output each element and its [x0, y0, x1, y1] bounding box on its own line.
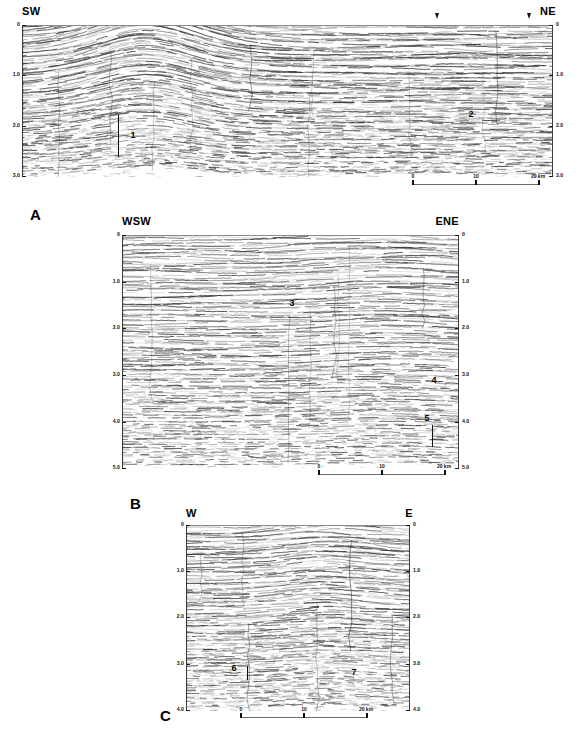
panel-c-annotation-6-leader: [247, 666, 248, 680]
panel-a-section: [22, 25, 553, 177]
panel-c-left-orientation: W: [186, 508, 197, 519]
panel-a-annotation-1-leader: [118, 115, 119, 157]
panel-a: SW NE 0 1.0 2.0 3.0 0 1.0 2.0: [0, 0, 580, 200]
panel-a-left-orientation: SW: [22, 6, 40, 17]
panel-c-seismic-traces: [187, 526, 409, 711]
panel-b-left-orientation: WSW: [122, 216, 151, 227]
panel-c-annotation-7: 7: [351, 668, 356, 677]
panel-c-section: [186, 525, 410, 711]
panel-b-section: [122, 235, 459, 468]
panel-c-letter: C: [160, 708, 171, 723]
panel-b-scalebar: 0 10 20 km: [318, 468, 446, 482]
panel-c-right-orientation: E: [405, 508, 413, 519]
panel-b-annotation-5-leader: [432, 425, 433, 447]
panel-a-scalebar: 0 10 20 km: [412, 178, 540, 192]
panel-b-seismic-traces: [123, 236, 458, 468]
panel-c-annotation-6: 6: [231, 664, 236, 673]
seismic-figure: SW NE 0 1.0 2.0 3.0 0 1.0 2.0: [0, 0, 580, 746]
panel-c: W E 0 1.0 2.0 3.0 4.0 0 1.0 2.0: [0, 500, 580, 746]
panel-a-marker-2: [527, 13, 531, 19]
panel-a-annotation-2: 2: [468, 110, 473, 119]
panel-c-scalebar: 0 10 20 km: [240, 711, 368, 725]
panel-a-right-orientation: NE: [540, 6, 556, 17]
panel-a-marker-1: [435, 13, 439, 19]
panel-b: WSW ENE 0 1.0 2.0 3.0 4.0 5.0 0 1.0: [0, 200, 580, 500]
panel-b-right-orientation: ENE: [435, 216, 459, 227]
panel-a-annotation-1: 1: [130, 131, 135, 140]
panel-b-annotation-5: 5: [424, 414, 429, 423]
panel-b-annotation-4: 4: [431, 376, 436, 385]
panel-a-seismic-traces: [23, 26, 552, 177]
panel-b-annotation-3: 3: [289, 299, 294, 308]
